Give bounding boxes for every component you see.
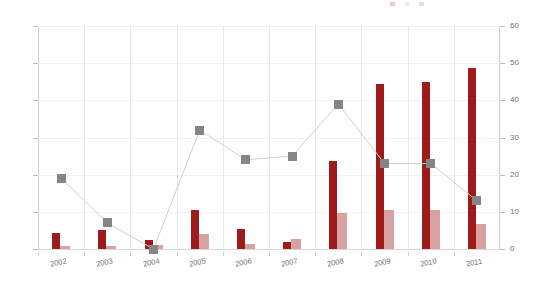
x-axis-tick	[361, 252, 362, 256]
y-axis-right-tick	[500, 100, 505, 101]
y-axis-right-label: 60	[510, 22, 540, 30]
y-axis-right-label: 50	[510, 59, 540, 67]
x-axis-tick	[177, 252, 178, 256]
legend-entry-2	[405, 0, 414, 6]
y-axis-right-tick	[500, 26, 505, 27]
line-marker	[241, 155, 250, 164]
legend-swatch-icon	[390, 2, 395, 6]
y-axis-right-tick	[500, 212, 505, 213]
line-marker	[380, 159, 389, 168]
y-axis-right-label: 10	[510, 208, 540, 216]
x-axis-labels: 2002200320042005200620072008200920102011	[38, 252, 500, 282]
x-axis-tick	[269, 252, 270, 256]
line-series-path	[38, 26, 500, 249]
x-axis-tick	[130, 252, 131, 256]
plot-area	[38, 26, 500, 249]
line-marker	[288, 152, 297, 161]
x-axis-label-2003: 2003	[96, 256, 114, 268]
legend-swatch-icon	[405, 2, 410, 6]
legend-swatch-icon	[419, 2, 424, 6]
x-axis-tick	[454, 252, 455, 256]
x-axis-label-2009: 2009	[373, 256, 391, 268]
y-axis-right-label: 40	[510, 96, 540, 104]
x-axis-tick	[223, 252, 224, 256]
x-axis-label-2002: 2002	[49, 256, 67, 268]
y-axis-right-tick	[500, 175, 505, 176]
x-axis-line	[38, 249, 500, 250]
legend-entry-3	[419, 0, 426, 6]
x-axis-tick	[315, 252, 316, 256]
x-axis-label-2006: 2006	[234, 256, 252, 268]
line-marker	[426, 159, 435, 168]
line-marker	[103, 218, 112, 227]
x-axis-label-2004: 2004	[142, 256, 160, 268]
y-axis-right-tick	[500, 63, 505, 64]
chart-container: 050100150200250300 0102030405060 2002200…	[0, 0, 550, 284]
line-marker	[472, 196, 481, 205]
x-axis-label-2010: 2010	[419, 256, 437, 268]
x-axis-tick	[408, 252, 409, 256]
y-axis-right-tick	[500, 249, 505, 250]
x-axis-label-2008: 2008	[327, 256, 345, 268]
line-marker	[57, 174, 66, 183]
legend-entry-1	[390, 0, 399, 6]
x-axis-tick	[84, 252, 85, 256]
chart-legend	[390, 0, 540, 7]
x-axis-label-2005: 2005	[188, 256, 206, 268]
y-axis-right-label: 30	[510, 134, 540, 142]
y-axis-right-tick	[500, 138, 505, 139]
y-axis-right-label: 20	[510, 171, 540, 179]
line-marker	[334, 100, 343, 109]
x-axis-tick	[38, 252, 39, 256]
line-marker	[149, 245, 158, 254]
line-marker	[195, 126, 204, 135]
x-axis-label-2007: 2007	[280, 256, 298, 268]
y-axis-right-label: 0	[510, 245, 540, 253]
x-axis-label-2011: 2011	[465, 256, 483, 268]
